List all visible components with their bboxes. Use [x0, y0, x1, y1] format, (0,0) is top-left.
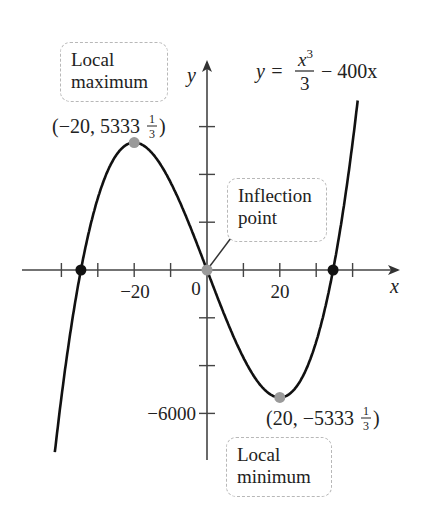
callout-line1: Local	[71, 49, 157, 71]
svg-text:): )	[373, 407, 380, 430]
equation-label: y = x3 3 − 400x	[254, 46, 377, 94]
root-left-marker	[75, 265, 86, 276]
x-tick-label-0: 0	[191, 278, 201, 299]
local-maximum-marker	[129, 137, 140, 148]
x-axis-label: x	[389, 275, 399, 297]
callout-line2: point	[238, 207, 316, 229]
local-minimum-marker	[274, 392, 285, 403]
x-tick-label-20: 20	[271, 281, 290, 302]
equation-numerator: x3	[297, 46, 313, 70]
callout-line1: Inflection	[238, 185, 316, 207]
local-max-coord-label: (−20, 5333 1 3 )	[52, 112, 166, 141]
svg-text:y =: y =	[254, 60, 283, 83]
chart-figure: −20 0 20 −6000 x y y = x3 3 − 400x (−20,…	[0, 0, 425, 515]
equation-lhs: y =	[254, 60, 283, 83]
local-maximum-callout: Local maximum	[60, 42, 168, 102]
inflection-leader-line	[207, 238, 231, 270]
equation-denominator: 3	[300, 73, 310, 94]
local-min-coord-label: (20, −5333 1 3 )	[266, 404, 380, 433]
inflection-point-marker	[202, 265, 213, 276]
svg-text:(20, −5333: (20, −5333	[266, 407, 354, 430]
root-right-marker	[328, 265, 339, 276]
inflection-point-callout: Inflection point	[227, 178, 327, 242]
local-minimum-callout: Local minimum	[226, 437, 332, 497]
x-tick-label-neg20: −20	[120, 281, 150, 302]
y-axis-label: y	[185, 64, 196, 87]
callout-line1: Local	[237, 444, 321, 466]
svg-text:3: 3	[149, 127, 155, 141]
svg-text:(−20, 5333: (−20, 5333	[52, 115, 140, 138]
callout-line2: maximum	[71, 71, 157, 93]
svg-text:3: 3	[363, 419, 369, 433]
svg-text:): )	[159, 115, 166, 138]
svg-text:1: 1	[149, 112, 155, 126]
callout-line2: minimum	[237, 466, 321, 488]
equation-rest: − 400x	[321, 60, 377, 82]
y-tick-label-neg6000: −6000	[147, 403, 196, 424]
svg-text:1: 1	[363, 404, 369, 418]
